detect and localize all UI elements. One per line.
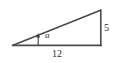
right-triangle-figure: 5 12 a [0,0,117,63]
label-side-12: 12 [52,49,62,59]
hypotenuse-line [13,10,101,45]
label-angle-a: a [45,31,50,40]
label-side-5: 5 [104,23,109,33]
